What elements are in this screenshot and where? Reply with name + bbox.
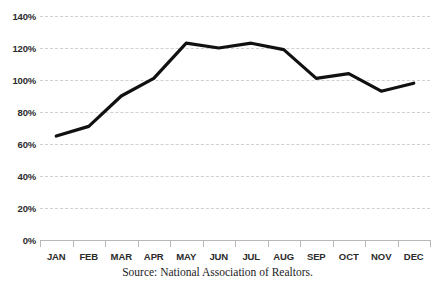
x-axis-tick-label: JUN bbox=[209, 251, 228, 262]
x-axis-tick-label: AUG bbox=[273, 251, 294, 262]
series-line-chart bbox=[0, 0, 435, 287]
x-axis-tick-label: FEB bbox=[79, 251, 98, 262]
x-axis-tick-label: JAN bbox=[47, 251, 66, 262]
x-axis-tick-label: MAR bbox=[111, 251, 132, 262]
x-axis-tick-label: NOV bbox=[371, 251, 391, 262]
chart-container: 0%20%40%60%80%100%120%140% JANFEBMARAPRM… bbox=[0, 0, 435, 287]
series-polyline bbox=[56, 43, 414, 136]
source-caption: Source: National Association of Realtors… bbox=[0, 266, 435, 278]
x-axis-tick-label: SEP bbox=[307, 251, 326, 262]
x-axis-tick-label: APR bbox=[144, 251, 164, 262]
x-axis-tick-label: OCT bbox=[339, 251, 359, 262]
x-axis-tick-label: DEC bbox=[404, 251, 424, 262]
x-axis-tick-label: JUL bbox=[242, 251, 260, 262]
x-axis-tick-label: MAY bbox=[176, 251, 196, 262]
